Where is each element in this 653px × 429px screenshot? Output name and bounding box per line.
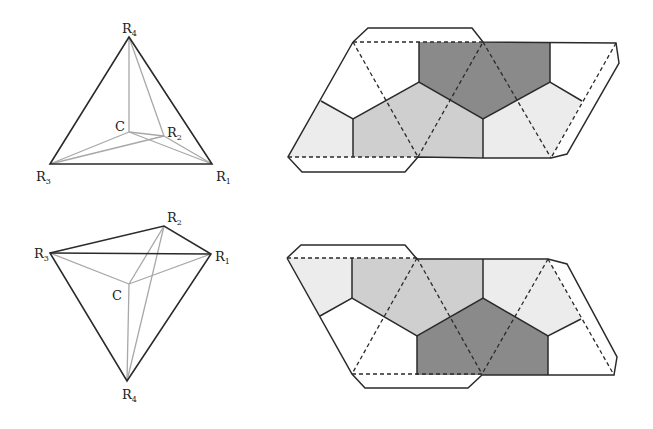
tetrahedron-top: R4 C R2 R3 R1 [36, 21, 231, 186]
label-c: C [112, 288, 122, 303]
label-c: C [115, 119, 125, 134]
region-light-left [288, 101, 353, 157]
label-r1: R1 [215, 249, 230, 266]
label-r3: R3 [36, 169, 51, 186]
diagram-canvas: R4 C R2 R3 R1 R2 R3 R1 C R4 [0, 0, 653, 429]
label-r1: R1 [216, 169, 231, 186]
label-r2: R2 [167, 210, 182, 227]
label-r4: R4 [122, 387, 137, 404]
label-r2: R2 [167, 125, 182, 142]
label-r4: R4 [122, 21, 137, 38]
tetrahedron-bottom: R2 R3 R1 C R4 [34, 210, 230, 404]
region-light-left [287, 258, 352, 316]
label-r3: R3 [34, 246, 49, 263]
net-bottom [287, 245, 617, 388]
net-top [288, 28, 619, 172]
